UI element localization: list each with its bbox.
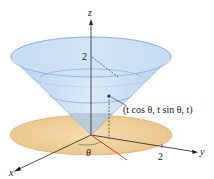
cone-diagram: z 2 (t cos θ, t sin θ, t) θ x 2 y — [0, 0, 214, 179]
z-tick-2: 2 — [82, 51, 87, 62]
point-label: (t cos θ, t sin θ, t) — [123, 104, 193, 116]
theta-label: θ — [86, 147, 91, 158]
z-axis-label: z — [87, 7, 92, 18]
z-axis-arrow-icon — [89, 19, 93, 25]
y-tick-2: 2 — [158, 151, 163, 162]
y-axis-label: y — [199, 146, 205, 157]
x-axis-arrow-icon — [14, 167, 21, 172]
surface-point — [107, 94, 110, 97]
x-axis-label: x — [8, 167, 14, 178]
y-axis-arrow-icon — [192, 150, 198, 154]
